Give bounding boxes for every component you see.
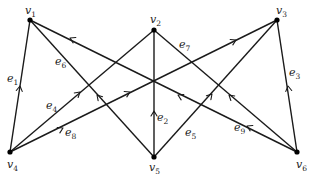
edge-label-e4: e4	[46, 99, 58, 114]
edge-label-e2: e2	[157, 111, 169, 126]
directed-graph-diagram: e1e2e3e4e5e6e7e8e9v1v2v3v4v5v6	[0, 0, 313, 177]
vertice-label-v3: v3	[276, 4, 287, 19]
vertice-label-v5: v5	[149, 161, 160, 176]
edge-e3	[277, 20, 297, 152]
edge-e6	[30, 20, 154, 157]
vertex-v6	[294, 149, 299, 154]
vertex-v3	[274, 17, 279, 22]
edge-label-e1: e1	[7, 72, 18, 87]
vertex-v4	[7, 149, 12, 154]
labels-layer: e1e2e3e4e5e6e7e8e9v1v2v3v4v5v6	[7, 4, 307, 176]
edge-label-e6: e6	[55, 55, 67, 70]
edge-e5	[154, 20, 277, 157]
vertex-v2	[151, 27, 156, 32]
edge-label-e3: e3	[289, 66, 301, 81]
vertice-label-v6: v6	[296, 158, 307, 173]
edge-label-e5: e5	[185, 126, 197, 141]
vertice-label-v1: v1	[25, 4, 36, 19]
vertex-v5	[151, 154, 156, 159]
edges-layer	[10, 20, 297, 157]
edge-label-e8: e8	[65, 126, 77, 141]
edge-label-e7: e7	[179, 38, 191, 53]
vertice-label-v2: v2	[150, 13, 161, 28]
vertice-label-v4: v4	[7, 158, 18, 173]
edge-label-e9: e9	[234, 121, 246, 136]
